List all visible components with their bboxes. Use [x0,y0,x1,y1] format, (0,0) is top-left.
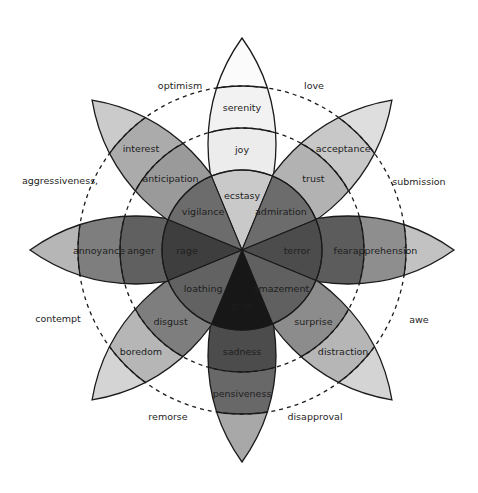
label-ecstasy: ecstasy [224,190,261,201]
label-admiration: admiration [255,206,307,217]
label-apprehension: apprehension [353,245,418,256]
label-amazement: amazement [253,283,310,294]
label-fear: fear [334,245,353,256]
dyad-awe: awe [409,314,429,325]
label-disgust: disgust [153,316,188,327]
dyad-love: love [304,80,324,91]
label-vigilance: vigilance [182,206,225,217]
label-grief: grief [231,300,253,311]
label-anger: anger [127,245,155,256]
dyad-aggressiveness: aggressiveness, [22,175,98,186]
label-surprise: surprise [294,316,332,327]
label-loathing: loathing [184,283,223,294]
label-rage: rage [176,245,198,256]
emotion-wheel: ecstasyjoyserenityadmirationtrustaccepta… [0,0,478,493]
dyad-disapproval: disapproval [287,411,342,422]
label-distraction: distraction [318,346,369,357]
label-annoyance: annoyance [73,245,125,256]
label-serenity: serenity [223,102,262,113]
dyad-remorse: remorse [148,411,187,422]
dyad-optimism: optimism [158,80,202,91]
label-anticipation: anticipation [143,173,199,184]
label-sadness: sadness [223,346,262,357]
dyad-contempt: contempt [35,313,81,324]
label-trust: trust [302,173,325,184]
label-boredom: boredom [120,346,162,357]
label-interest: interest [123,143,160,154]
label-acceptance: acceptance [316,143,371,154]
dyad-submission: submission [392,176,445,187]
label-terror: terror [284,245,311,256]
label-pensiveness: pensiveness [213,388,272,399]
label-joy: joy [234,144,249,155]
